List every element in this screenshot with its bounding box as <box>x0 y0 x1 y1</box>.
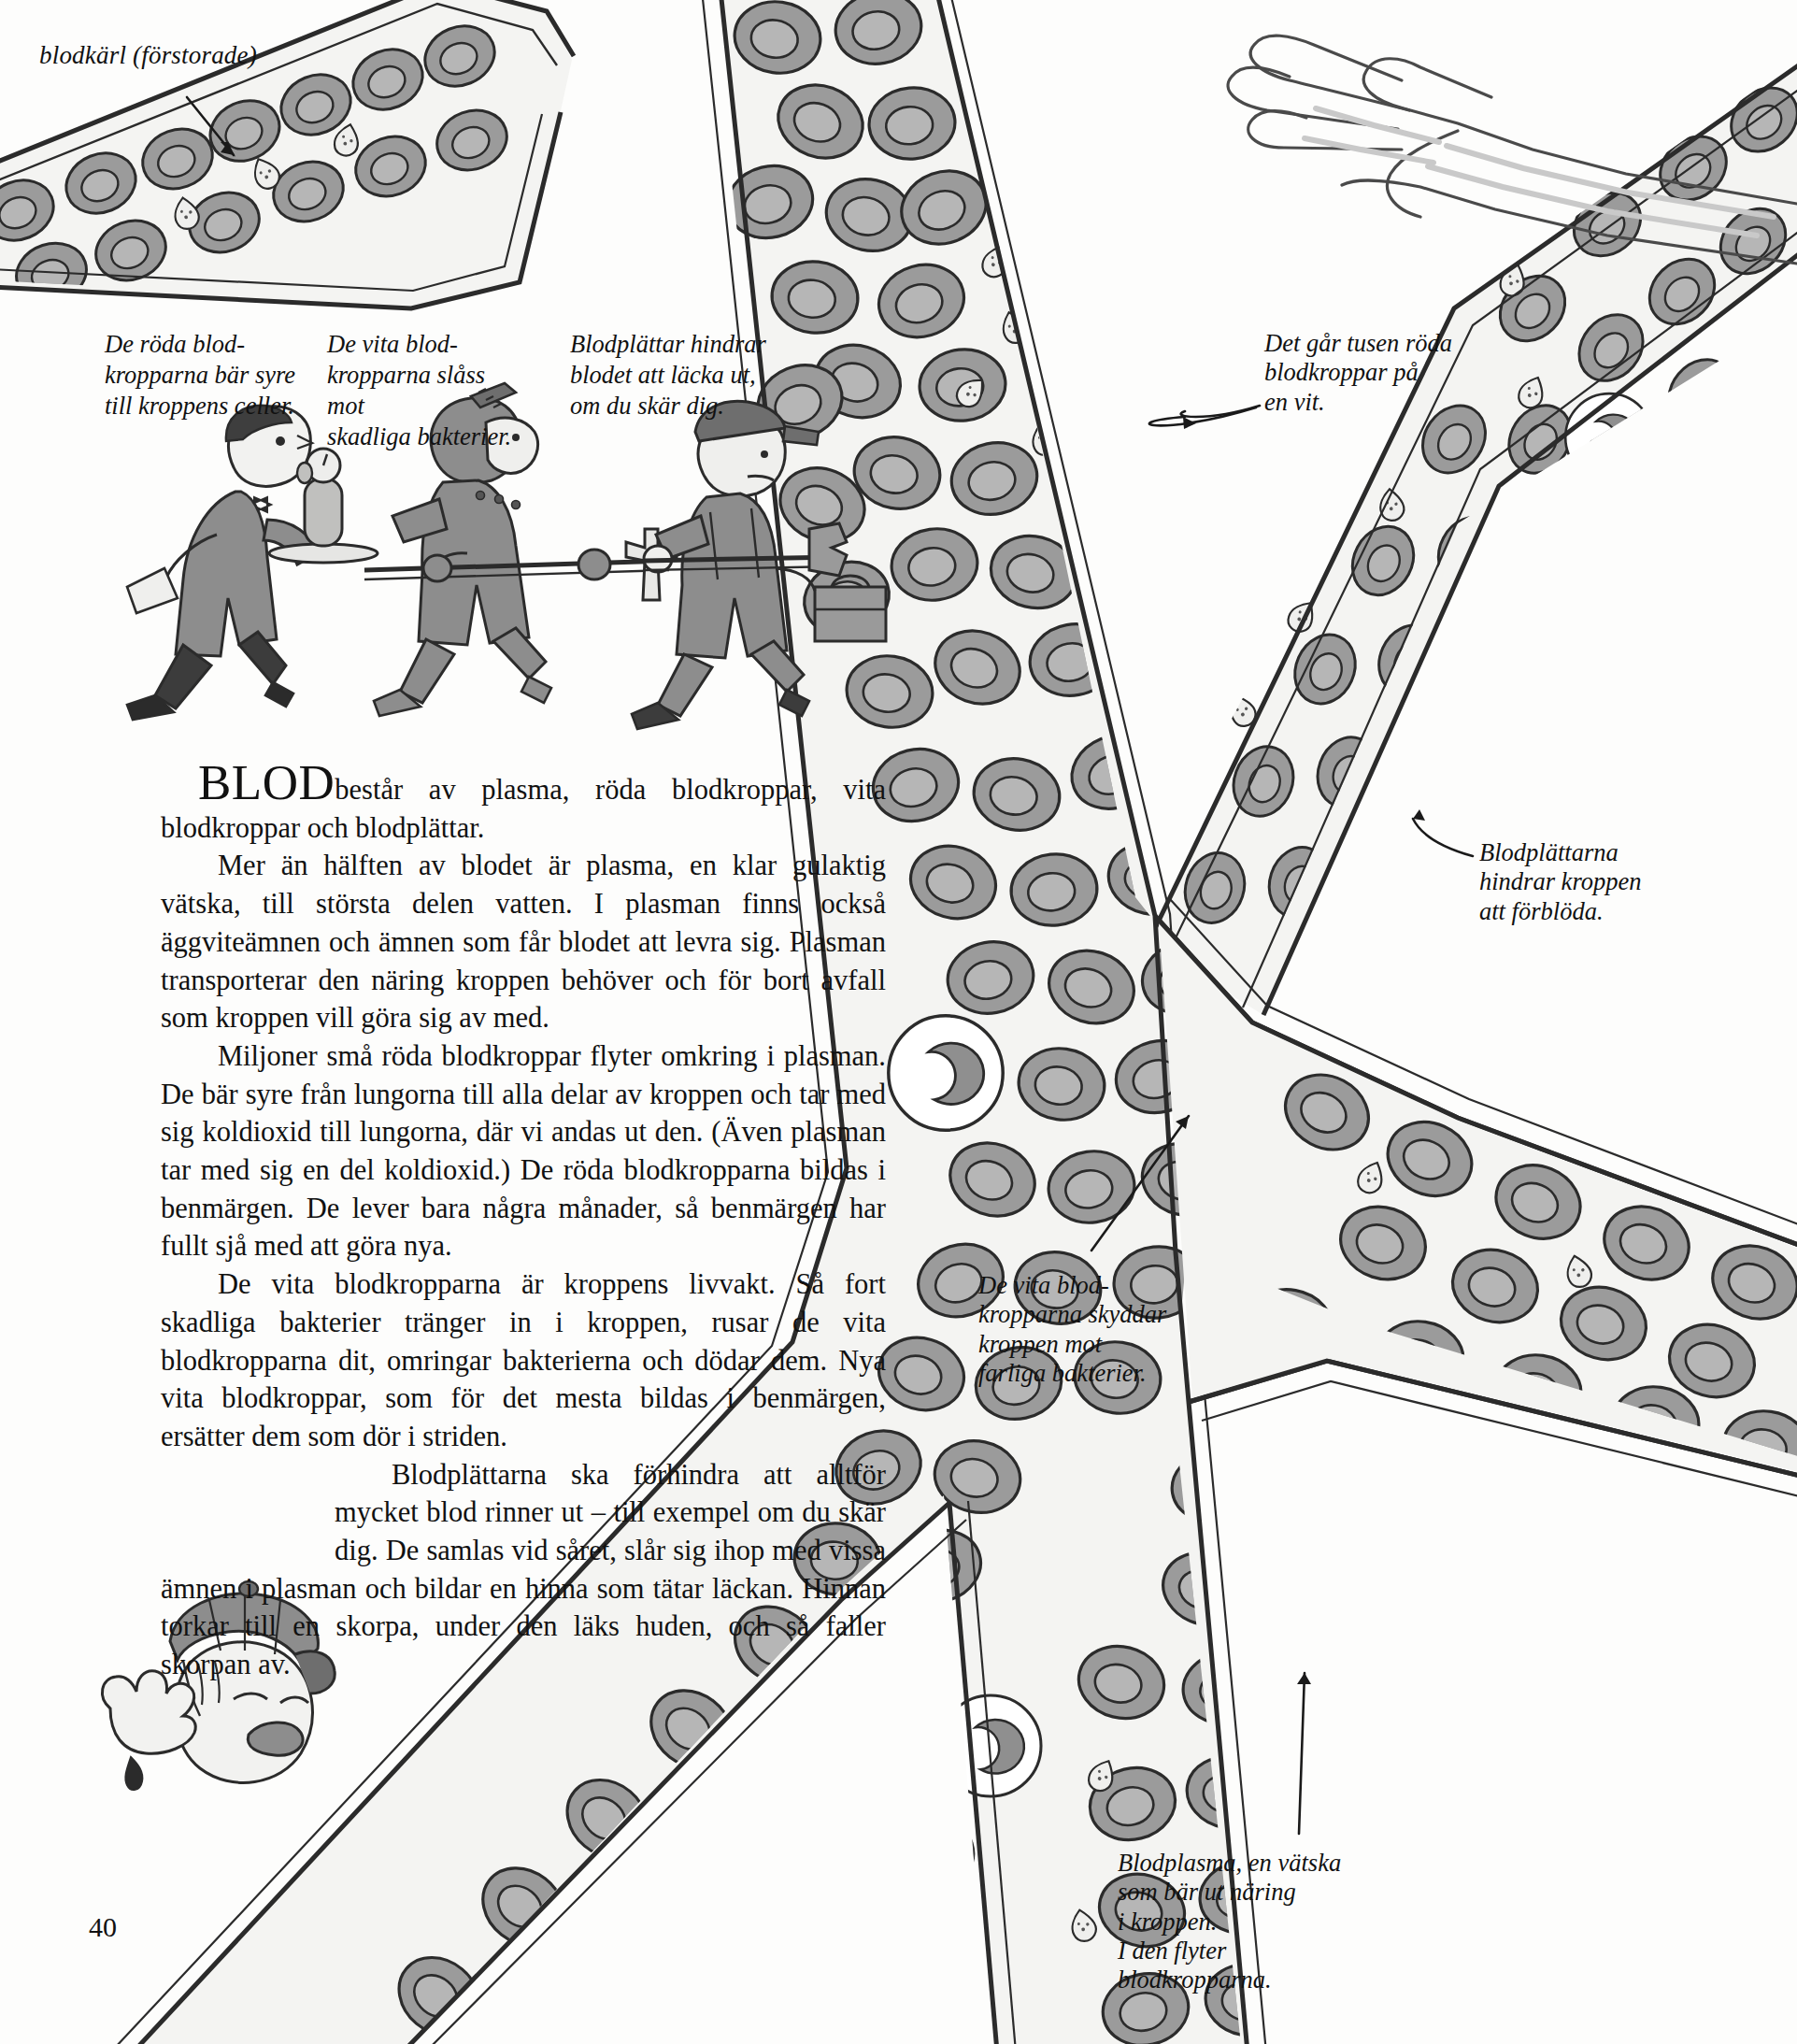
article-body: BLODbestår av plasma, röda blodkroppar, … <box>161 763 886 1684</box>
paragraph-1: BLODbestår av plasma, röda blodkroppar, … <box>161 763 886 847</box>
label-blood-vessel: blodkärl (förstorade) <box>39 41 257 71</box>
paragraph-3: Miljoner små röda blodkroppar flyter omk… <box>161 1037 886 1265</box>
paragraph-5: Blodplättarna ska förhindra att alltför … <box>161 1456 886 1684</box>
page-number: 40 <box>89 1911 117 1943</box>
label-blood-plasma: Blodplasma, en vätska som bär ut näring … <box>1118 1849 1370 1994</box>
caption-white-blood-cells: De vita blod- kropparna slåss mot skadli… <box>327 329 528 451</box>
paragraph-4: De vita blodkropparna är kroppens livvak… <box>161 1265 886 1456</box>
boy-illustration-spacer <box>161 1456 335 1546</box>
label-platelets-prevent-bleeding: Blodplättarna hindrar kroppen att förblö… <box>1479 838 1713 926</box>
book-page: blodkärl (förstorade) De röda blod- krop… <box>0 0 1797 2044</box>
label-thousand-red-per-white: Det går tusen röda blodkroppar på en vit… <box>1264 329 1493 417</box>
caption-platelets: Blodplättar hindrar blodet att läcka ut,… <box>570 329 794 422</box>
label-white-cells-protect: De vita blod- kropparna skyddar kroppen … <box>978 1271 1217 1388</box>
waiter-figure-art <box>127 406 378 720</box>
lead-word: BLOD <box>198 755 335 809</box>
paragraph-2: Mer än hälften av blodet är plasma, en k… <box>161 847 886 1037</box>
caption-red-blood-cells: De röda blod- kropparna bär syre till kr… <box>105 329 301 422</box>
